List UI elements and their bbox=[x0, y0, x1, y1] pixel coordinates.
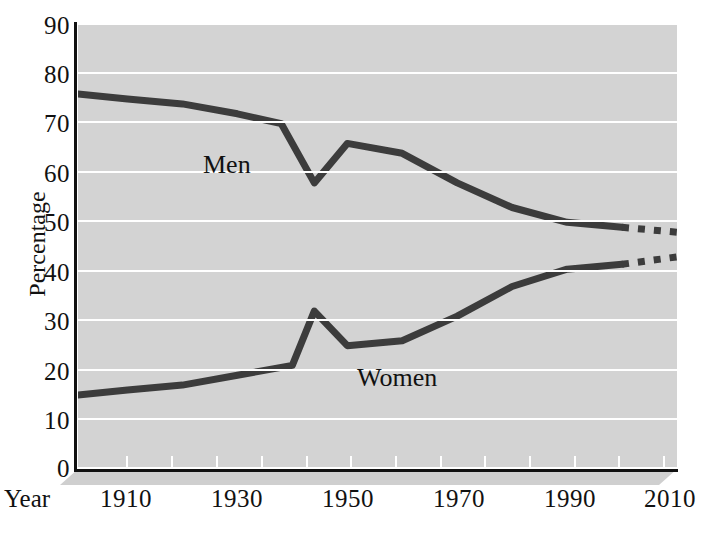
plot-area bbox=[78, 25, 677, 469]
x-axis-tick bbox=[440, 456, 442, 469]
x-axis-tick bbox=[574, 456, 576, 469]
gridline bbox=[78, 270, 677, 272]
y-tick-label: 20 bbox=[4, 359, 70, 384]
gridline bbox=[78, 121, 677, 123]
x-tick-label: 1970 bbox=[404, 484, 514, 513]
x-tick-label: 1930 bbox=[182, 484, 292, 513]
x-axis-tick bbox=[306, 456, 308, 469]
series-label-women: Women bbox=[357, 365, 437, 391]
x-tick-label: 1950 bbox=[293, 484, 403, 513]
y-tick-label: 70 bbox=[4, 111, 70, 136]
y-tick-label: 80 bbox=[4, 62, 70, 87]
x-tick-label: 2010 bbox=[615, 484, 704, 513]
y-tick-label: 0 bbox=[4, 456, 70, 481]
gridline bbox=[78, 72, 677, 74]
series-line bbox=[78, 94, 622, 227]
x-axis-line bbox=[74, 469, 678, 472]
x-tick-label: 1910 bbox=[71, 484, 181, 513]
x-axis-tick bbox=[663, 456, 665, 469]
series-line bbox=[622, 257, 677, 264]
series-line bbox=[622, 227, 677, 232]
gridline bbox=[78, 220, 677, 222]
y-tick-label: 10 bbox=[4, 408, 70, 433]
x-axis-tick bbox=[350, 456, 352, 469]
x-axis-tick bbox=[261, 456, 263, 469]
x-axis-tick bbox=[216, 456, 218, 469]
x-tick-label: 1990 bbox=[515, 484, 625, 513]
y-axis-line bbox=[74, 22, 77, 472]
x-axis-tick bbox=[395, 456, 397, 469]
series-label-men: Men bbox=[203, 152, 251, 178]
y-axis-title: Percentage bbox=[25, 144, 49, 344]
x-axis-tick bbox=[529, 456, 531, 469]
x-axis-title: Year bbox=[4, 484, 50, 513]
x-axis-tick bbox=[171, 456, 173, 469]
x-axis-tick bbox=[126, 456, 128, 469]
x-axis-tick bbox=[618, 456, 620, 469]
gridline bbox=[78, 319, 677, 321]
x-axis-tick bbox=[484, 456, 486, 469]
line-chart-figure: 90 80 70 60 50 40 30 20 10 0 Percentage … bbox=[0, 0, 704, 537]
gridline bbox=[78, 171, 677, 173]
gridline bbox=[78, 418, 677, 420]
data-series-layer bbox=[78, 25, 677, 469]
y-tick-label: 90 bbox=[4, 13, 70, 38]
series-line bbox=[78, 264, 622, 395]
